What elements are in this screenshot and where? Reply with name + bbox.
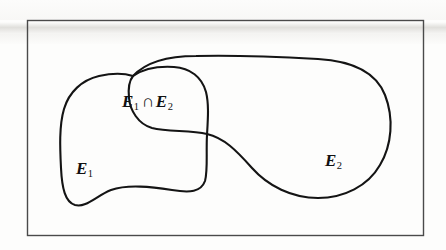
- label-intersection-set-b: E: [156, 92, 167, 111]
- label-set-e2: E2: [325, 152, 342, 171]
- label-set-e2-subscript: 2: [337, 160, 342, 171]
- diagram-canvas: [0, 0, 446, 250]
- set-e2-curve: [129, 56, 391, 198]
- label-intersection-set-a-subscript: 1: [134, 101, 139, 112]
- label-set-e1-subscript: 1: [88, 168, 93, 179]
- intersection-operator-icon: ∩: [142, 92, 154, 111]
- label-intersection-set-b-subscript: 2: [168, 101, 173, 112]
- venn-diagram-figure: E1∩E2 E1 E2: [0, 0, 446, 250]
- label-intersection-set-a: E: [122, 92, 133, 111]
- set-e1-curve: [60, 67, 208, 206]
- label-intersection-e1-e2: E1∩E2: [122, 93, 173, 112]
- label-set-e2-symbol: E: [325, 151, 336, 170]
- label-set-e1: E1: [76, 160, 93, 179]
- label-set-e1-symbol: E: [76, 159, 87, 178]
